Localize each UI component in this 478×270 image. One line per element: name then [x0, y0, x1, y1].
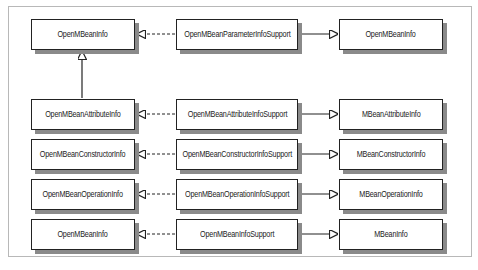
- class-name: OpenMBeanInfo: [366, 30, 416, 39]
- class-name: OpenMBeanOperationInfo: [43, 190, 123, 199]
- class-box-right-2: MBeanAttributeInfo: [339, 99, 443, 130]
- class-name: MBeanAttributeInfo: [362, 110, 421, 119]
- class-box-right-1: OpenMBeanInfo: [339, 19, 443, 50]
- class-name: OpenMBeanConstructorInfoSupport: [182, 150, 291, 159]
- class-box-middle-2: OpenMBeanAttributeInfoSupport: [176, 99, 298, 130]
- class-name: MBeanConstructorInfo: [357, 150, 426, 159]
- class-box-middle-3: OpenMBeanConstructorInfoSupport: [176, 139, 298, 170]
- class-name: OpenMBeanAttributeInfoSupport: [187, 110, 286, 119]
- class-name: OpenMBeanConstructorInfo: [40, 150, 125, 159]
- class-box-right-5: MBeanInfo: [339, 219, 443, 250]
- class-name: OpenMBeanOperationInfoSupport: [185, 190, 289, 199]
- class-name: OpenMBeanAttributeInfo: [45, 110, 120, 119]
- class-box-left-5: OpenMBeanInfo: [31, 219, 135, 250]
- class-name: OpenMBeanInfo: [58, 30, 108, 39]
- class-box-middle-5: OpenMBeanInfoSupport: [176, 219, 298, 250]
- class-name: OpenMBeanParameterInfoSupport: [184, 30, 290, 39]
- class-box-left-3: OpenMBeanConstructorInfo: [31, 139, 135, 170]
- class-box-right-4: MBeanOperationInfo: [339, 179, 443, 210]
- class-box-middle-1: OpenMBeanParameterInfoSupport: [176, 19, 298, 50]
- class-box-middle-4: OpenMBeanOperationInfoSupport: [176, 179, 298, 210]
- class-box-left-4: OpenMBeanOperationInfo: [31, 179, 135, 210]
- class-box-right-3: MBeanConstructorInfo: [339, 139, 443, 170]
- class-box-left-2: OpenMBeanAttributeInfo: [31, 99, 135, 130]
- class-name: MBeanInfo: [374, 230, 407, 239]
- class-name: MBeanOperationInfo: [359, 190, 422, 199]
- class-name: OpenMBeanInfoSupport: [200, 230, 274, 239]
- class-box-left-1: OpenMBeanInfo: [31, 19, 135, 50]
- class-name: OpenMBeanInfo: [58, 230, 108, 239]
